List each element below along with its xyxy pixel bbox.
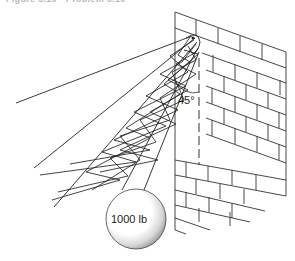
angle-label: 45° [178, 94, 195, 106]
diagram-canvas: 1000 lb 45° [0, 0, 295, 261]
brick-wall [175, 12, 286, 234]
net-lattice [40, 37, 198, 200]
rope-lines [16, 35, 200, 207]
weight-label: 1000 lb [111, 213, 147, 225]
anchor-point [192, 37, 195, 40]
